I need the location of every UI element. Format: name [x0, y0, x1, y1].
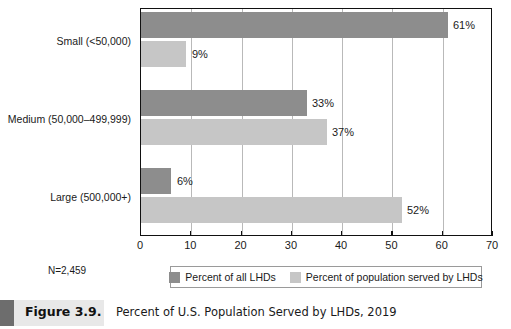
tick-label-60: 60	[436, 239, 448, 251]
legend-label-population: Percent of population served by LHDs	[306, 271, 483, 283]
category-axis-labels: Small (<50,000) Medium (50,000–499,999) …	[0, 8, 136, 236]
bar-value-large-all-lhds: 6%	[177, 168, 193, 194]
tick-label-10: 10	[184, 239, 196, 251]
bar-value-medium-all-lhds: 33%	[312, 90, 334, 116]
tick-label-20: 20	[234, 239, 246, 251]
category-label-small: Small (<50,000)	[0, 35, 131, 47]
bar-value-large-population: 52%	[407, 197, 429, 223]
tick-mark-30	[291, 231, 292, 236]
tick-mark-70	[492, 231, 493, 236]
caption-title-text: Percent of U.S. Population Served by LHD…	[116, 305, 397, 319]
tick-label-40: 40	[335, 239, 347, 251]
legend-entry-all-lhds: Percent of all LHDs	[169, 271, 275, 283]
tick-mark-40	[341, 231, 342, 236]
tick-label-50: 50	[385, 239, 397, 251]
tick-mark-20	[241, 231, 242, 236]
tick-mark-60	[442, 231, 443, 236]
bar-value-small-population: 9%	[192, 41, 208, 67]
tick-mark-10	[190, 231, 191, 236]
tick-mark-50	[391, 231, 392, 236]
tick-label-0: 0	[137, 239, 143, 251]
sample-size-note: N=2,459	[48, 265, 86, 276]
legend-entry-population: Percent of population served by LHDs	[290, 271, 483, 283]
figure-3-9: Small (<50,000) Medium (50,000–499,999) …	[0, 0, 511, 329]
legend-swatch-population	[290, 272, 301, 283]
legend-swatch-all-lhds	[169, 272, 180, 283]
caption-marker-block	[0, 300, 14, 326]
chart-legend: Percent of all LHDs Percent of populatio…	[170, 266, 482, 288]
bar-small-population	[141, 41, 186, 67]
tick-label-30: 30	[285, 239, 297, 251]
bar-medium-population	[141, 119, 327, 145]
figure-caption: Figure 3.9. Percent of U.S. Population S…	[0, 300, 511, 326]
plot-area: 61% 9% 33% 37% 6% 52%	[141, 9, 491, 235]
tick-label-70: 70	[486, 239, 498, 251]
bar-value-small-all-lhds: 61%	[453, 12, 475, 38]
bar-large-population	[141, 197, 402, 223]
bar-value-medium-population: 37%	[332, 119, 354, 145]
legend-label-all-lhds: Percent of all LHDs	[185, 271, 275, 283]
plot-frame: 61% 9% 33% 37% 6% 52%	[140, 8, 492, 236]
gridline-60	[443, 9, 444, 235]
bar-large-all-lhds	[141, 168, 171, 194]
category-label-large: Large (500,000+)	[0, 191, 131, 203]
category-label-medium: Medium (50,000–499,999)	[0, 113, 131, 125]
bar-medium-all-lhds	[141, 90, 307, 116]
bar-small-all-lhds	[141, 12, 448, 38]
caption-figure-number: Figure 3.9.	[25, 304, 102, 319]
tick-mark-0	[140, 231, 141, 236]
x-axis: 0 10 20 30 40 50 60 70	[140, 236, 492, 256]
